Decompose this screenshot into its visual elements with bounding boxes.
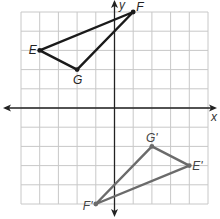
coordinate-plane: x y E F G E' F' G' — [0, 0, 220, 219]
vertex-point — [37, 48, 42, 53]
x-axis-label: x — [210, 110, 218, 124]
triangle-efg — [37, 10, 135, 72]
vertex-label-e: E — [29, 43, 38, 57]
vertex-label-e-prime: E' — [192, 159, 203, 173]
vertex-point — [93, 202, 98, 207]
vertex-point — [187, 163, 192, 168]
vertex-point — [131, 10, 136, 15]
vertex-label-f-prime: F' — [83, 199, 93, 213]
triangle-efg-prime — [93, 144, 191, 206]
x-axis — [3, 105, 217, 112]
vertex-label-g-prime: G' — [146, 131, 158, 145]
vertex-label-f: F — [136, 0, 144, 14]
vertex-point — [75, 67, 80, 72]
vertex-label-g: G — [73, 73, 82, 87]
y-axis-label: y — [118, 0, 126, 12]
